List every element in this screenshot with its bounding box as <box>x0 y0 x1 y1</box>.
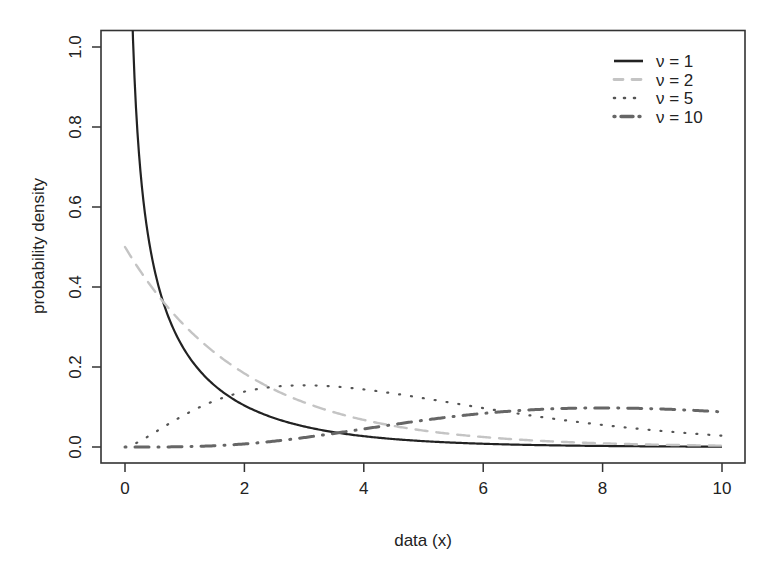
y-tick-label: 0.0 <box>66 435 85 459</box>
series-curves <box>125 0 722 447</box>
chi-square-density-chart: 0246810 0.00.20.40.60.81.0 data (x) prob… <box>0 0 769 567</box>
y-tick-label: 0.8 <box>66 115 85 139</box>
legend-label-df-5: ν = 5 <box>656 89 693 108</box>
legend-label-df-1: ν = 1 <box>656 52 693 71</box>
curve-df-2 <box>125 247 722 446</box>
x-tick-label: 6 <box>478 479 487 498</box>
x-tick-label: 10 <box>713 479 732 498</box>
x-axis-title: data (x) <box>394 531 452 550</box>
y-tick-label: 0.6 <box>66 195 85 219</box>
legend-label-df-2: ν = 2 <box>656 71 693 90</box>
x-tick-label: 0 <box>120 479 129 498</box>
y-axis-title: probability density <box>29 177 48 314</box>
x-tick-label: 2 <box>240 479 249 498</box>
legend: ν = 1ν = 2ν = 5ν = 10 <box>614 52 703 127</box>
legend-label-df-10: ν = 10 <box>656 108 703 127</box>
x-axis: 0246810 <box>120 463 731 498</box>
curve-df-1 <box>129 0 722 447</box>
y-tick-label: 1.0 <box>66 35 85 59</box>
y-axis: 0.00.20.40.60.81.0 <box>66 35 101 459</box>
y-tick-label: 0.2 <box>66 355 85 379</box>
y-tick-label: 0.4 <box>66 275 85 299</box>
x-tick-label: 8 <box>598 479 607 498</box>
curve-df-5 <box>125 385 722 447</box>
x-tick-label: 4 <box>359 479 368 498</box>
